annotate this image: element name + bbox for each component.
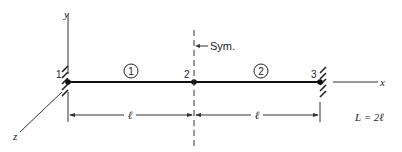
z-axis — [20, 92, 62, 132]
z-axis-label: z — [12, 130, 18, 142]
y-axis-label: y — [63, 8, 69, 20]
dimension-1-arrow-right — [187, 113, 193, 117]
dimension-1-label: ℓ — [128, 109, 133, 121]
dimension-2-arrow-left — [195, 113, 201, 117]
x-axis-label: x — [379, 76, 385, 88]
node-1-label: 1 — [56, 69, 62, 80]
node-3 — [317, 79, 323, 85]
dimension-2-arrow-right — [313, 113, 319, 117]
dimension-1-arrow-left — [69, 113, 75, 117]
node-2-label: 2 — [184, 69, 190, 80]
node-3-label: 3 — [311, 69, 317, 80]
element-1-label: 1 — [128, 66, 134, 77]
beam-diagram: y z x 1 2 3 1 2 Sym. ℓ — [0, 0, 402, 152]
node-1 — [65, 79, 71, 85]
symmetry-label: Sym. — [210, 40, 235, 52]
total-length-label: L = 2ℓ — [354, 111, 384, 123]
symmetry-arrow-head — [195, 44, 200, 48]
dimension-2-label: ℓ — [255, 109, 260, 121]
element-2-label: 2 — [258, 66, 264, 77]
